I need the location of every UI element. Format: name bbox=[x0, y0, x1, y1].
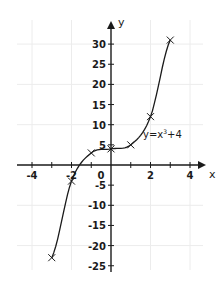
y-axis-arrow-icon bbox=[107, 21, 115, 29]
equation-base: y=x bbox=[143, 129, 163, 140]
x-axis-arrow-icon bbox=[198, 161, 206, 169]
y-tick-label: -25 bbox=[88, 261, 106, 272]
x-axis-label: x bbox=[209, 168, 216, 181]
y-tick-label: 10 bbox=[92, 120, 106, 131]
y-tick-label: 25 bbox=[92, 59, 106, 70]
y-tick-label: -20 bbox=[88, 241, 106, 252]
x-tick-label: -4 bbox=[26, 170, 37, 181]
y-axis-label: y bbox=[118, 16, 125, 29]
equation-label: y=x3+4 bbox=[143, 128, 182, 140]
equation-tail: +4 bbox=[167, 129, 182, 140]
y-tick-label: 20 bbox=[92, 79, 106, 90]
x-marker-icon bbox=[48, 254, 55, 261]
x-marker-icon bbox=[127, 141, 134, 148]
x-tick-label: 4 bbox=[187, 170, 194, 181]
axes bbox=[17, 21, 206, 272]
x-tick-label: 2 bbox=[147, 170, 154, 181]
y-tick-label: -5 bbox=[95, 180, 106, 191]
tick-labels: -4-202430252015105-5-10-15-20-25 bbox=[26, 39, 193, 272]
y-tick-label: -15 bbox=[88, 220, 106, 231]
x-marker-icon bbox=[167, 37, 174, 44]
x-marker-icon bbox=[88, 149, 95, 156]
y-tick-label: 15 bbox=[92, 100, 106, 111]
y-tick-label: -10 bbox=[88, 200, 106, 211]
cubic-function-chart: -4-202430252015105-5-10-15-20-25 x y y=x… bbox=[0, 0, 221, 291]
y-tick-label: 30 bbox=[92, 39, 106, 50]
